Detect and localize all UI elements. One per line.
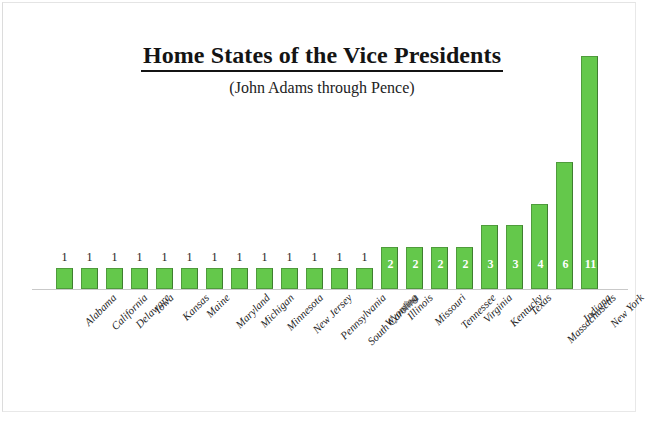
bar-slot: 1 — [102, 49, 127, 289]
bar[interactable] — [156, 268, 173, 289]
bar-slot: 6 — [552, 49, 577, 289]
bar[interactable] — [131, 268, 148, 289]
bar[interactable]: 4 — [531, 204, 548, 289]
bar[interactable]: 3 — [506, 225, 523, 289]
bar-value-label: 1 — [302, 251, 327, 263]
bar[interactable] — [106, 268, 123, 289]
bar-value-label: 1 — [152, 251, 177, 263]
bar-slot: 1 — [152, 49, 177, 289]
bar-value-label: 4 — [532, 258, 549, 270]
bar[interactable]: 3 — [481, 225, 498, 289]
bar-value-label: 11 — [582, 258, 599, 270]
bar[interactable]: 6 — [556, 162, 573, 289]
bar-value-label: 3 — [482, 258, 499, 270]
bar-slot: 2 — [427, 49, 452, 289]
bar-slot: 1 — [327, 49, 352, 289]
bar-value-label: 1 — [177, 251, 202, 263]
bar-value-label: 1 — [102, 251, 127, 263]
bar[interactable] — [56, 268, 73, 289]
bar[interactable] — [256, 268, 273, 289]
bar-slot: 1 — [277, 49, 302, 289]
bar-slot: 1 — [227, 49, 252, 289]
bar-slot: 1 — [127, 49, 152, 289]
bar[interactable] — [231, 268, 248, 289]
bar[interactable] — [81, 268, 98, 289]
bar-slot: 2 — [377, 49, 402, 289]
bar-slot: 1 — [202, 49, 227, 289]
bar[interactable]: 2 — [456, 247, 473, 289]
bar-value-label: 2 — [432, 258, 449, 270]
category-axis: AlabamaCaliforniaDelawareIowaKansasMaine… — [32, 292, 628, 372]
bar-value-label: 6 — [557, 258, 574, 270]
bar-value-label: 2 — [457, 258, 474, 270]
bar-value-label: 1 — [327, 251, 352, 263]
bar-slot: 1 — [352, 49, 377, 289]
bar[interactable]: 2 — [381, 247, 398, 289]
bar-slot: 1 — [52, 49, 77, 289]
bar-slot: 3 — [502, 49, 527, 289]
x-axis-line — [32, 289, 628, 290]
bar[interactable] — [306, 268, 323, 289]
bar-value-label: 1 — [127, 251, 152, 263]
bar[interactable]: 2 — [406, 247, 423, 289]
bar-value-label: 2 — [382, 258, 399, 270]
bar[interactable] — [181, 268, 198, 289]
bar-slot: 1 — [77, 49, 102, 289]
bar-slot: 1 — [302, 49, 327, 289]
bar-slot: 3 — [477, 49, 502, 289]
bar-slot: 11 — [577, 49, 602, 289]
plot-area: 11111111111112222334611 — [32, 50, 628, 290]
bar-value-label: 1 — [202, 251, 227, 263]
bar-value-label: 1 — [252, 251, 277, 263]
bar-value-label: 2 — [407, 258, 424, 270]
bar-slot: 1 — [252, 49, 277, 289]
bar-value-label: 1 — [277, 251, 302, 263]
bar-slot: 4 — [527, 49, 552, 289]
bar[interactable] — [206, 268, 223, 289]
bar-value-label: 1 — [77, 251, 102, 263]
bar-slot: 2 — [402, 49, 427, 289]
bar-slot: 1 — [177, 49, 202, 289]
bar-value-label: 3 — [507, 258, 524, 270]
bar-value-label: 1 — [352, 251, 377, 263]
bar-value-label: 1 — [227, 251, 252, 263]
bar[interactable] — [331, 268, 348, 289]
bar-value-label: 1 — [52, 251, 77, 263]
bar[interactable]: 2 — [431, 247, 448, 289]
bar-slot: 2 — [452, 49, 477, 289]
bar[interactable] — [281, 268, 298, 289]
bar[interactable] — [356, 268, 373, 289]
bar[interactable]: 11 — [581, 56, 598, 289]
